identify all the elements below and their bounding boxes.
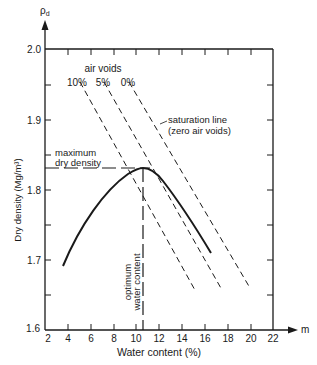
svg-text:10: 10 [130,333,142,344]
air-voids-label-5: 5% [96,77,111,88]
svg-text:4: 4 [65,333,71,344]
svg-text:6: 6 [88,333,94,344]
saturation-label-2: (zero air voids) [168,125,231,136]
air-voids-0-line [129,82,250,288]
axes-frame [45,30,290,330]
max-density-label-2: dry density [55,157,101,168]
svg-text:14: 14 [176,333,188,344]
svg-text:8: 8 [111,333,117,344]
svg-text:1.8: 1.8 [27,185,41,196]
svg-text:2: 2 [45,333,51,344]
y-axis-title: Dry density (Mg/m³) [12,158,23,241]
y-axis-symbol: ρd [40,5,50,17]
air-voids-label-10: 10% [67,77,87,88]
svg-text:22: 22 [267,333,279,344]
x-axis-arrow-icon [288,327,298,334]
svg-text:2.0: 2.0 [27,44,41,55]
svg-text:1.6: 1.6 [26,323,40,334]
svg-text:16: 16 [199,333,211,344]
svg-text:12: 12 [153,333,165,344]
x-tick-labels: 2 4 6 8 10 12 14 16 18 20 22 [45,333,279,344]
compaction-chart: ρd m [0,0,317,365]
svg-text:20: 20 [245,333,257,344]
y-ticks [45,85,273,295]
air-voids-label-0: 0% [121,77,136,88]
svg-text:1.7: 1.7 [27,255,41,266]
air-voids-header: air voids [84,63,121,74]
svg-text:18: 18 [222,333,234,344]
svg-text:1.9: 1.9 [27,115,41,126]
compaction-curve [63,168,211,266]
y-tick-labels: 2.0 1.9 1.8 1.7 1.6 [26,44,41,334]
saturation-leader-line [160,121,167,124]
x-axis-title: Water content (%) [117,346,201,358]
optimum-label-2: water content [131,253,142,311]
y-axis-arrow-icon [42,20,49,30]
x-axis-symbol: m [301,324,309,335]
saturation-label-1: saturation line [168,114,227,125]
x-ticks [68,49,251,330]
